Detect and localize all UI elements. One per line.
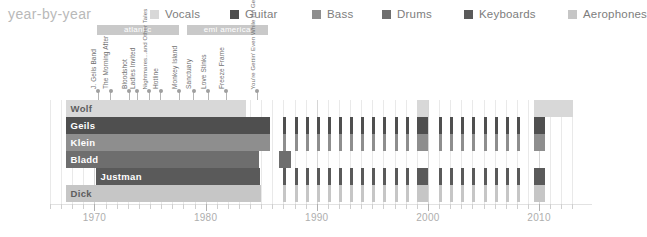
timeline-row-bladd[interactable]: Bladd (0, 151, 592, 168)
reunion-year-stripe (472, 117, 475, 134)
reunion-year-stripe (484, 185, 487, 202)
album-dot-icon (224, 89, 228, 93)
legend-item-bass[interactable]: Bass (312, 6, 353, 22)
reunion-year-stripe (495, 134, 498, 151)
reunion-year-stripe (461, 168, 464, 185)
axis-tick-minor (106, 204, 107, 209)
axis-tick-minor (328, 204, 329, 209)
reunion-year-stripe (372, 168, 375, 185)
axis-tick-major (428, 204, 429, 211)
reunion-year-stripe (395, 134, 398, 151)
reunion-year-stripe (484, 117, 487, 134)
axis-tick-minor (195, 204, 196, 209)
timeline-row-geils[interactable]: Geils (0, 117, 592, 134)
reunion-year-stripe (350, 185, 353, 202)
reunion-year-stripe (472, 168, 475, 185)
reunion-year-stripe (328, 117, 331, 134)
legend-swatch-icon (382, 10, 391, 19)
legend-swatch-icon (568, 10, 577, 19)
legend-swatch-icon (464, 10, 473, 19)
legend-item-aerophones[interactable]: Aerophones (568, 6, 647, 22)
reunion-year-stripe (339, 134, 342, 151)
reunion-year-stripe (295, 168, 298, 185)
album-dot-icon (127, 89, 131, 93)
album-title: Nightmares...and Other Tales (141, 8, 148, 89)
album-stem (98, 92, 99, 100)
axis-tick-minor (228, 204, 229, 209)
reunion-year-stripe (395, 117, 398, 134)
timeline-row-wolf[interactable]: Wolf (0, 100, 592, 117)
reunion-year-stripe (283, 134, 286, 151)
axis-tick-minor (528, 204, 529, 209)
legend-item-drums[interactable]: Drums (382, 6, 432, 22)
album-dot-icon (255, 89, 259, 93)
reunion-year-stripe (461, 117, 464, 134)
legend-swatch-icon (312, 10, 321, 19)
legend-item-vocals[interactable]: Vocals (150, 6, 200, 22)
album-stem (193, 92, 194, 100)
reunion-year-stripe (328, 168, 331, 185)
axis-tick-minor (272, 204, 273, 209)
album-dot-icon (206, 89, 210, 93)
reunion-year-stripe (395, 185, 398, 202)
axis-tick-minor (383, 204, 384, 209)
reunion-year-stripe (283, 185, 286, 202)
reunion-year-stripe (439, 185, 442, 202)
reunion-year-stripe (506, 168, 509, 185)
album-stem (179, 92, 180, 100)
reunion-year-stripe (506, 185, 509, 202)
reunion-year-stripe (306, 134, 309, 151)
reunion-year-stripe (472, 185, 475, 202)
reunion-year-stripe (472, 134, 475, 151)
timeline-plot: WolfGeilsKleinBladdJustmanDick (0, 100, 592, 204)
axis-tick-minor (117, 204, 118, 209)
page-title: year-by-year (8, 6, 91, 22)
reunion-year-stripe (406, 185, 409, 202)
axis-tick-minor (261, 204, 262, 209)
timeline-row-justman[interactable]: Justman (0, 168, 592, 185)
member-name-label: Klein (66, 134, 96, 151)
axis-tick-minor (217, 204, 218, 209)
album-stem (129, 92, 130, 100)
reunion-year-stripe (450, 117, 453, 134)
timeline-row-dick[interactable]: Dick (0, 185, 592, 202)
album-dot-icon (159, 89, 163, 93)
reunion-year-stripe (484, 134, 487, 151)
reunion-year-stripe (350, 117, 353, 134)
album-stem (149, 92, 150, 100)
reunion-year-stripe (339, 117, 342, 134)
tour-block (534, 117, 546, 134)
axis-tick-minor (50, 204, 51, 209)
tour-block (417, 168, 429, 185)
reunion-year-stripe (506, 134, 509, 151)
axis-tick-minor (128, 204, 129, 209)
tour-block (561, 100, 573, 117)
axis-tick-minor (350, 204, 351, 209)
reunion-year-stripe (495, 168, 498, 185)
axis-tick-major (206, 204, 207, 211)
axis-tick-minor (239, 204, 240, 209)
legend-item-keyboards[interactable]: Keyboards (464, 6, 536, 22)
axis-tick-label: 2000 (416, 212, 439, 223)
axis-tick-minor (61, 204, 62, 209)
reunion-year-stripe (350, 168, 353, 185)
tenure-bar (66, 100, 246, 117)
album-dot-icon (96, 89, 100, 93)
reunion-year-stripe (295, 185, 298, 202)
timeline-row-klein[interactable]: Klein (0, 134, 592, 151)
tour-block (550, 100, 562, 117)
axis-tick-minor (183, 204, 184, 209)
axis-tick-minor (361, 204, 362, 209)
album-dot-icon (177, 89, 181, 93)
record-label-text: emi america (204, 25, 251, 35)
axis-tick-label: 2010 (527, 212, 550, 223)
reunion-year-stripe (317, 134, 320, 151)
album-dot-icon (135, 89, 139, 93)
reunion-year-stripe (361, 117, 364, 134)
reunion-year-stripe (450, 185, 453, 202)
legend-label: Bass (327, 8, 353, 20)
reunion-year-stripe (328, 134, 331, 151)
reunion-year-stripe (406, 117, 409, 134)
reunion-year-stripe (495, 185, 498, 202)
axis-tick-minor (161, 204, 162, 209)
